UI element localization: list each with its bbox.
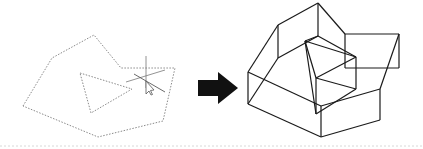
wireframe-edge (318, 3, 345, 34)
profile-sketch (23, 35, 175, 137)
wireframe-edge (248, 104, 321, 137)
extrude-diagram (0, 0, 423, 149)
wireframe-edge (321, 89, 380, 106)
wireframe-edge (316, 89, 356, 114)
wireframe-edge (380, 34, 399, 89)
outer-profile (23, 35, 175, 137)
wireframe-edge (316, 78, 356, 89)
wireframe-edge (321, 120, 380, 137)
wireframe-edge (305, 41, 316, 78)
wireframe-solid (248, 3, 399, 137)
wireframe-edge (305, 41, 316, 114)
wireframe-edge (278, 3, 318, 25)
inner-triangle-profile (80, 73, 132, 113)
wireframe-edge (278, 36, 318, 58)
right-arrow-icon (198, 72, 238, 104)
